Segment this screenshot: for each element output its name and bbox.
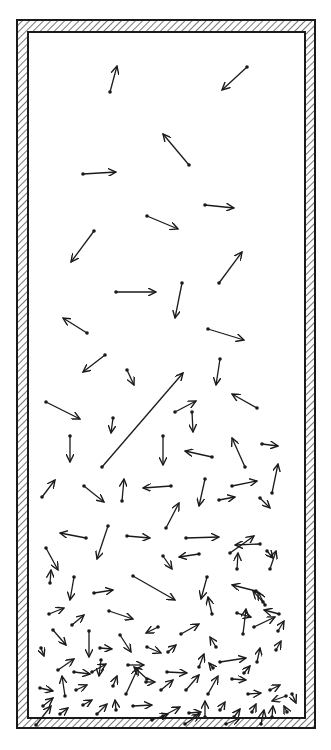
molecule-velocity-arrow-icon bbox=[161, 680, 173, 690]
molecule-velocity-arrow-icon bbox=[232, 481, 257, 486]
molecule-velocity-arrow-icon bbox=[205, 205, 234, 208]
molecule-velocity-arrow-icon bbox=[235, 544, 260, 545]
molecule-velocity-arrow-icon bbox=[175, 401, 196, 412]
molecule-velocity-arrow-icon bbox=[254, 617, 275, 627]
molecule-velocity-arrow-icon bbox=[278, 621, 284, 631]
molecule-velocity-arrow-icon bbox=[167, 672, 187, 673]
molecule-velocity-arrow-icon bbox=[219, 497, 235, 500]
molecule-velocity-arrow-icon bbox=[234, 709, 240, 717]
molecule-velocity-arrow-icon bbox=[163, 134, 189, 165]
molecule-velocity-arrow-icon bbox=[62, 676, 65, 696]
molecule-velocity-arrow-icon bbox=[186, 537, 219, 538]
molecule-velocity-arrow-icon bbox=[237, 613, 251, 617]
molecule-velocity-arrow-icon bbox=[42, 480, 55, 497]
molecule-velocity-arrow-icon bbox=[276, 641, 281, 650]
molecule-velocity-arrow-icon bbox=[208, 676, 218, 694]
molecule-velocity-arrow-icon bbox=[146, 627, 158, 633]
molecule-velocity-arrow-icon bbox=[60, 533, 86, 538]
molecule-velocity-arrow-icon bbox=[272, 464, 278, 493]
molecule-velocity-arrow-icon bbox=[147, 647, 161, 653]
molecule-velocity-arrow-icon bbox=[199, 654, 204, 667]
molecule-velocity-arrow-icon bbox=[76, 685, 87, 690]
molecule-velocity-arrow-icon bbox=[189, 712, 201, 713]
molecule-velocity-arrow-icon bbox=[209, 663, 213, 668]
molecule-velocity-arrow-icon bbox=[84, 486, 104, 502]
molecule-velocity-arrow-icon bbox=[83, 355, 105, 372]
molecule-velocity-arrow-icon bbox=[257, 648, 260, 662]
molecule-velocity-arrow-icon bbox=[186, 675, 199, 690]
molecule-velocity-arrow-icon bbox=[166, 503, 179, 528]
molecule-velocity-arrow-icon bbox=[272, 706, 273, 717]
molecule-velocity-arrow-icon bbox=[46, 548, 58, 570]
molecule-velocity-arrow-icon bbox=[94, 590, 113, 593]
molecule-velocity-arrow-icon bbox=[120, 635, 131, 652]
gas-container-diagram bbox=[0, 0, 331, 750]
molecule-velocity-arrow-icon bbox=[208, 329, 244, 340]
molecule-velocity-arrow-icon bbox=[74, 672, 90, 674]
molecule-velocity-arrow-icon bbox=[126, 668, 138, 694]
molecule-arrows bbox=[36, 66, 296, 725]
molecule-velocity-arrow-icon bbox=[232, 394, 257, 408]
molecule-velocity-arrow-icon bbox=[97, 704, 107, 714]
molecule-velocity-arrow-icon bbox=[192, 412, 193, 432]
molecule-velocity-arrow-icon bbox=[292, 694, 296, 703]
molecule-velocity-arrow-icon bbox=[133, 705, 152, 706]
molecule-velocity-arrow-icon bbox=[43, 698, 53, 706]
molecule-velocity-arrow-icon bbox=[272, 696, 286, 701]
molecule-velocity-arrow-icon bbox=[220, 658, 246, 662]
molecule-velocity-arrow-icon bbox=[113, 676, 117, 686]
molecule-velocity-arrow-icon bbox=[72, 615, 84, 625]
molecule-velocity-arrow-icon bbox=[267, 551, 273, 558]
molecule-velocity-arrow-icon bbox=[175, 283, 182, 318]
molecule-velocity-arrow-icon bbox=[252, 704, 256, 712]
molecule-velocity-arrow-icon bbox=[181, 624, 199, 634]
molecule-velocity-arrow-icon bbox=[111, 418, 113, 433]
molecule-velocity-arrow-icon bbox=[122, 479, 124, 501]
molecule-velocity-arrow-icon bbox=[237, 553, 238, 569]
molecule-velocity-arrow-icon bbox=[71, 231, 94, 262]
molecule-velocity-arrow-icon bbox=[199, 479, 205, 506]
molecule-velocity-arrow-icon bbox=[115, 700, 116, 710]
molecule-velocity-arrow-icon bbox=[97, 526, 108, 559]
molecule-velocity-arrow-icon bbox=[262, 444, 278, 446]
molecule-velocity-arrow-icon bbox=[168, 645, 176, 652]
molecule-velocity-arrow-icon bbox=[133, 576, 175, 600]
molecule-velocity-arrow-icon bbox=[110, 66, 117, 92]
diagram-canvas bbox=[0, 0, 331, 750]
molecule-velocity-arrow-icon bbox=[50, 570, 51, 583]
molecule-velocity-arrow-icon bbox=[208, 597, 212, 614]
molecule-velocity-arrow-icon bbox=[49, 608, 64, 614]
molecule-velocity-arrow-icon bbox=[220, 702, 225, 710]
molecule-velocity-arrow-icon bbox=[179, 554, 199, 557]
molecule-velocity-arrow-icon bbox=[40, 688, 53, 691]
molecule-velocity-arrow-icon bbox=[100, 648, 112, 649]
molecule-velocity-arrow-icon bbox=[83, 172, 116, 174]
molecule-velocity-arrow-icon bbox=[264, 610, 279, 614]
molecule-velocity-arrow-icon bbox=[270, 551, 276, 569]
molecule-velocity-arrow-icon bbox=[210, 637, 216, 647]
molecule-velocity-arrow-icon bbox=[143, 486, 171, 488]
molecule-velocity-arrow-icon bbox=[102, 373, 183, 467]
molecule-velocity-arrow-icon bbox=[232, 585, 256, 591]
molecule-velocity-arrow-icon bbox=[109, 611, 133, 619]
molecule-velocity-arrow-icon bbox=[127, 536, 150, 538]
molecule-velocity-arrow-icon bbox=[243, 609, 246, 634]
molecule-velocity-arrow-icon bbox=[216, 359, 220, 385]
molecule-velocity-arrow-icon bbox=[244, 666, 250, 673]
molecule-velocity-arrow-icon bbox=[260, 498, 270, 508]
molecule-velocity-arrow-icon bbox=[60, 708, 68, 714]
molecule-velocity-arrow-icon bbox=[185, 451, 212, 457]
molecule-velocity-arrow-icon bbox=[248, 693, 261, 694]
molecule-velocity-arrow-icon bbox=[232, 679, 246, 680]
molecule-velocity-arrow-icon bbox=[219, 252, 242, 283]
molecule-velocity-arrow-icon bbox=[53, 630, 66, 645]
molecule-velocity-arrow-icon bbox=[63, 318, 87, 333]
molecule-velocity-arrow-icon bbox=[147, 216, 178, 229]
molecule-velocity-arrow-icon bbox=[232, 438, 245, 467]
molecule-velocity-arrow-icon bbox=[284, 706, 287, 712]
molecule-velocity-arrow-icon bbox=[41, 648, 44, 656]
molecule-velocity-arrow-icon bbox=[83, 700, 92, 705]
molecule-velocity-arrow-icon bbox=[270, 685, 280, 690]
molecule-velocity-arrow-icon bbox=[127, 370, 134, 385]
molecule-velocity-arrow-icon bbox=[58, 659, 74, 670]
